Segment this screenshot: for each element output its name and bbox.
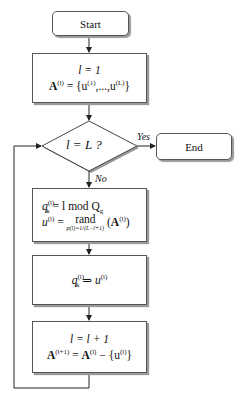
rand-operator: randp(l)=1/(L−l+1) — [67, 214, 104, 232]
start-label: Start — [80, 18, 101, 30]
end-label: End — [185, 141, 203, 153]
start-node: Start — [52, 11, 129, 36]
end-node: End — [156, 133, 232, 160]
assign-line-1: q(l)k = l mod Qg — [42, 198, 103, 214]
assign-node: q(l)k = l mod Qg u(l) = randp(l)=1/(L−l+… — [32, 188, 147, 242]
assign-line-2: u(l) = randp(l)=1/(L−l+1) (A(l)) — [42, 214, 130, 232]
update-line-1: l = l + 1 — [70, 331, 109, 347]
edge-label-no: No — [95, 173, 107, 184]
update-line-2: A(l+1) = A(l) − {u(l)} — [47, 347, 132, 363]
update-node: l = l + 1 A(l+1) = A(l) − {u(l)} — [32, 321, 147, 373]
map-node: q(l)k ⇒ u(l) — [32, 255, 147, 305]
init-line-2: A(l) = {u(1),...,u(L)} — [49, 78, 130, 94]
decision-label: l = L ? — [66, 137, 102, 153]
init-node: l = 1 A(l) = {u(1),...,u(L)} — [32, 53, 147, 103]
edge-label-yes: Yes — [137, 131, 150, 142]
init-line-1: l = 1 — [78, 62, 100, 78]
map-line: q(l)k ⇒ u(l) — [72, 272, 108, 288]
